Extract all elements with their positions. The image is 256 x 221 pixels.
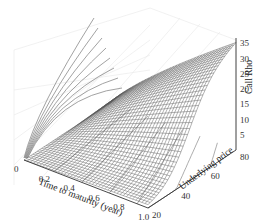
y-tick-label: 20 <box>152 210 162 220</box>
mesh-surface <box>24 43 236 205</box>
z-tick-label: 15 <box>240 99 250 109</box>
z-tick-label: 35 <box>240 38 250 48</box>
y-tick-label: 80 <box>240 152 250 162</box>
surface-plot: 00.20.40.60.81.0 20406080 5101520253035 … <box>0 0 256 221</box>
x-tick-label: 1.0 <box>138 212 150 221</box>
z-axis-label: Call Rho <box>244 60 254 94</box>
z-tick-label: 10 <box>240 115 250 125</box>
y-tick-label: 40 <box>181 191 191 201</box>
y-tick-label: 60 <box>211 171 221 181</box>
x-tick-label: 0 <box>14 164 19 174</box>
wall-contour-lines <box>24 18 122 158</box>
z-tick-label: 5 <box>240 130 245 140</box>
